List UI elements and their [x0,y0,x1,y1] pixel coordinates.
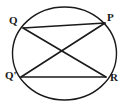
vertex-label-q: Q [9,15,18,26]
geometry-figure: Q P Q' R [0,0,129,106]
chord-q-to-r [23,28,106,77]
circumscribed-circle [13,7,117,100]
vertex-label-q-prime: Q' [5,70,17,81]
vertex-label-r: R [110,72,118,83]
vertex-label-p: P [107,12,114,23]
chord-q-to-p [23,23,105,28]
